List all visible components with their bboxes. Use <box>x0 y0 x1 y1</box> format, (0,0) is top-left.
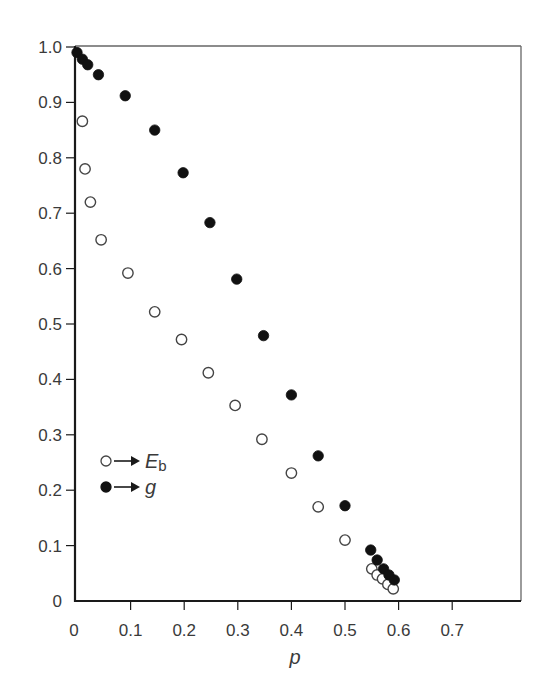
open-point <box>286 468 296 478</box>
y-tick-label: 0.3 <box>38 426 62 445</box>
arrow-right-icon <box>131 456 140 466</box>
open-point <box>80 164 90 174</box>
filled-point <box>372 555 382 565</box>
open-point <box>77 116 87 126</box>
legend-marker-filled <box>101 482 111 492</box>
filled-point <box>286 390 296 400</box>
filled-point <box>258 330 268 340</box>
y-tick-label: 0.2 <box>38 481 62 500</box>
x-axis-label: p <box>288 646 300 668</box>
y-tick-label: 0.6 <box>38 260 62 279</box>
filled-point <box>340 501 350 511</box>
y-tick-label: 0.8 <box>38 149 62 168</box>
filled-point <box>178 168 188 178</box>
arrow-right-icon <box>131 482 140 492</box>
open-point <box>85 197 95 207</box>
legend-label: Eb <box>145 450 167 474</box>
series-g <box>72 47 400 585</box>
open-point <box>176 334 186 344</box>
y-tick-label: 0.9 <box>38 93 62 112</box>
open-point <box>123 268 133 278</box>
y-tick-label: 0.5 <box>38 315 62 334</box>
filled-point <box>83 60 93 70</box>
open-point <box>340 535 350 545</box>
y-tick-label: 0.4 <box>38 370 62 389</box>
open-point <box>96 235 106 245</box>
open-point <box>230 400 240 410</box>
open-point <box>203 368 213 378</box>
legend: Ebg <box>101 450 167 498</box>
filled-point <box>120 91 130 101</box>
filled-point <box>93 70 103 80</box>
x-tick-label: 0 <box>69 621 78 640</box>
legend-label: g <box>145 476 156 498</box>
filled-point <box>366 545 376 555</box>
x-tick-label: 0.2 <box>172 621 196 640</box>
x-tick-label: 0.1 <box>119 621 143 640</box>
filled-point <box>150 125 160 135</box>
plot-frame <box>74 46 521 602</box>
scatter-chart: 00.10.20.30.40.50.60.7 00.10.20.30.40.50… <box>0 0 546 688</box>
y-tick-label: 0.1 <box>38 537 62 556</box>
filled-point <box>313 451 323 461</box>
data-points <box>72 47 400 594</box>
y-tick-label: 0 <box>53 592 62 611</box>
series-e-b <box>77 116 398 594</box>
y-tick-label: 1.0 <box>38 38 62 57</box>
y-tick-label: 0.7 <box>38 204 62 223</box>
open-point <box>150 307 160 317</box>
x-tick-label: 0.7 <box>440 621 464 640</box>
x-tick-label: 0.4 <box>280 621 304 640</box>
filled-point <box>232 274 242 284</box>
open-point <box>257 434 267 444</box>
x-tick-label: 0.6 <box>387 621 411 640</box>
y-axis: 00.10.20.30.40.50.60.70.80.91.0 <box>38 38 75 611</box>
legend-marker-open <box>101 456 111 466</box>
x-tick-label: 0.3 <box>226 621 250 640</box>
filled-point <box>205 217 215 227</box>
x-tick-label: 0.5 <box>333 621 357 640</box>
open-point <box>313 502 323 512</box>
x-axis: 00.10.20.30.40.50.60.7 <box>69 601 464 640</box>
filled-point <box>389 575 399 585</box>
